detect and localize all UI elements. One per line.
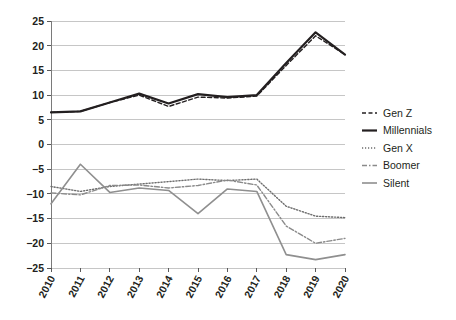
x-tick-label: 2017 [242,273,264,299]
x-tick-label: 2018 [271,273,293,299]
y-tick-label: −5 [32,163,44,175]
series-line-millennials [51,32,345,112]
y-tick-label: 10 [32,89,44,101]
legend-label-millennials: Millennials [383,124,432,136]
y-tick-label: −15 [26,212,44,224]
y-tick-label: −25 [26,262,44,274]
gridlines-layer [51,21,345,268]
x-tick-label: 2014 [153,273,175,299]
series-layer [51,32,345,259]
x-tick-label: 2019 [300,273,322,299]
y-tick-label: 0 [38,138,44,150]
x-tick-label: 2016 [212,273,234,299]
y-tick-label: −20 [26,237,44,249]
y-tick-label: 25 [32,15,44,27]
chart-legend: Gen ZMillennialsGen XBoomerSilent [362,107,432,189]
line-chart: 2520151050−5−10−15−20−25 201020112012201… [0,0,456,320]
y-tick-label: −10 [26,188,44,200]
y-axis: 2520151050−5−10−15−20−25 [26,15,51,274]
x-tick-label: 2020 [330,273,352,299]
x-tick-label: 2010 [36,273,58,299]
x-tick-label: 2015 [183,273,205,299]
x-tick-label: 2012 [95,273,117,299]
legend-label-silent: Silent [383,177,409,189]
x-tick-label: 2011 [65,273,86,299]
legend-label-gen-x: Gen X [383,142,413,154]
x-tick-label: 2013 [124,273,146,299]
legend-label-boomer: Boomer [383,159,420,171]
x-axis: 2010201120122013201420152016201720182019… [36,268,352,300]
chart-canvas: 2520151050−5−10−15−20−25 201020112012201… [0,0,456,320]
legend-label-gen-z: Gen Z [383,107,413,119]
y-tick-label: 5 [38,114,44,126]
y-tick-label: 15 [32,64,44,76]
y-tick-label: 20 [32,40,44,52]
